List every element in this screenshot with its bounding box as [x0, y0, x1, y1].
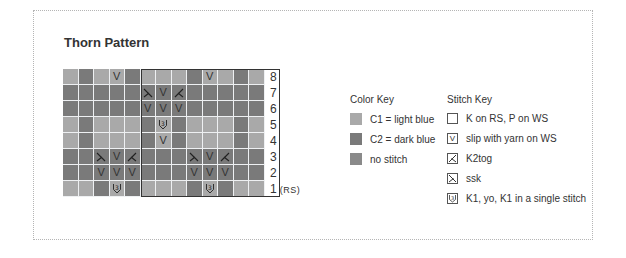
stitch-key-item-increase: 3 K1, yo, K1 in a single stitch	[447, 193, 586, 204]
ssk-icon	[143, 88, 153, 98]
chart-cell	[94, 101, 110, 117]
swatch-c1	[350, 113, 362, 125]
chart-cell	[156, 181, 172, 197]
slip-stitch-icon: V	[113, 167, 120, 178]
chart-cell: V	[187, 165, 203, 181]
chart-cell: 3	[156, 117, 172, 133]
chart-cell	[172, 85, 188, 101]
slip-stitch-icon: V	[206, 151, 213, 162]
chart-cell	[187, 85, 203, 101]
chart-cell: V	[218, 165, 234, 181]
k2tog-icon	[174, 88, 184, 98]
chart-cell	[63, 133, 79, 149]
increase-3-icon: 3	[447, 193, 458, 204]
swatch-no-stitch	[350, 153, 362, 165]
chart-cell	[63, 101, 79, 117]
k2tog-icon	[220, 152, 230, 162]
chart-cell	[249, 85, 265, 101]
stitch-key-heading: Stitch Key	[447, 94, 492, 105]
color-key-label: no stitch	[370, 154, 407, 165]
chart-cell	[218, 149, 234, 165]
chart-cell	[172, 165, 188, 181]
color-key-item-no-stitch: no stitch	[350, 153, 407, 165]
increase-3-icon: 3	[158, 119, 168, 130]
chart-cell	[172, 117, 188, 133]
chart-cell	[110, 117, 126, 133]
stitch-key-item-ssk: ssk	[447, 173, 481, 184]
stitch-key-item-k2tog: K2tog	[447, 153, 492, 164]
knitting-chart-grid: VVVVVV3VVVVVVVVV33	[63, 69, 265, 197]
chart-cell	[249, 165, 265, 181]
chart-cell	[79, 85, 95, 101]
row-number: 1 (RS)	[270, 181, 300, 197]
color-key-item-c1: C1 = light blue	[350, 113, 434, 125]
chart-cell	[110, 133, 126, 149]
chart-cell	[141, 85, 157, 101]
slip-stitch-icon: V	[160, 103, 167, 114]
chart-cell	[94, 149, 110, 165]
chart-cell	[234, 181, 250, 197]
chart-cell	[110, 101, 126, 117]
chart-cell	[79, 133, 95, 149]
swatch-c2	[350, 133, 362, 145]
chart-cell	[218, 133, 234, 149]
chart-cell	[218, 69, 234, 85]
chart-cell	[234, 69, 250, 85]
chart-cell	[249, 181, 265, 197]
chart-cell	[125, 181, 141, 197]
row-number: 7	[270, 85, 300, 101]
chart-cell	[187, 101, 203, 117]
chart-cell	[249, 117, 265, 133]
chart-title: Thorn Pattern	[64, 35, 149, 50]
chart-cell	[218, 101, 234, 117]
slip-stitch-icon: V	[206, 71, 213, 82]
chart-cell	[94, 181, 110, 197]
chart-cell	[249, 133, 265, 149]
chart-cell	[110, 85, 126, 101]
chart-cell: V	[110, 149, 126, 165]
chart-cell	[141, 69, 157, 85]
increase-3-icon: 3	[205, 183, 215, 194]
chart-cell	[94, 133, 110, 149]
chart-cell	[63, 165, 79, 181]
chart-cell	[203, 117, 219, 133]
chart-cell: V	[125, 165, 141, 181]
chart-cell: 3	[203, 181, 219, 197]
chart-cell	[63, 117, 79, 133]
chart-cell	[141, 165, 157, 181]
chart-cell: 3	[110, 181, 126, 197]
stitch-key-label: ssk	[466, 173, 481, 184]
chart-cell	[125, 149, 141, 165]
stitch-key-item-slip: V slip with yarn on WS	[447, 133, 557, 144]
chart-cell	[187, 117, 203, 133]
chart-cell	[234, 117, 250, 133]
k2tog-icon	[447, 153, 458, 164]
chart-cell	[234, 101, 250, 117]
chart-cell	[63, 69, 79, 85]
chart-cell	[79, 165, 95, 181]
row-number: 8	[270, 69, 300, 85]
chart-cell	[203, 101, 219, 117]
chart-cell	[79, 181, 95, 197]
chart-cell	[218, 117, 234, 133]
chart-cell: V	[156, 133, 172, 149]
right-side-label: (RS)	[277, 185, 301, 195]
row-number: 3	[270, 149, 300, 165]
chart-cell	[187, 133, 203, 149]
slip-stitch-icon: V	[113, 151, 120, 162]
chart-cell	[156, 149, 172, 165]
stitch-key-label: K2tog	[466, 153, 492, 164]
svg-text:3: 3	[208, 184, 212, 191]
chart-cell	[63, 149, 79, 165]
slip-stitch-icon: V	[447, 133, 458, 144]
chart-cell: V	[172, 101, 188, 117]
chart-cell	[218, 181, 234, 197]
chart-cell	[234, 85, 250, 101]
ssk-icon	[96, 152, 106, 162]
slip-stitch-icon: V	[98, 167, 105, 178]
k2tog-icon	[127, 152, 137, 162]
color-key-label: C2 = dark blue	[370, 134, 435, 145]
row-number: 6	[270, 101, 300, 117]
chart-cell	[125, 85, 141, 101]
svg-text:3: 3	[161, 120, 165, 127]
